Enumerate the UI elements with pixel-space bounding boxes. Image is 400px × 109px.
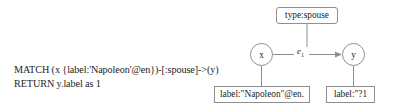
cypher-query-block: MATCH (x {label:'Napoleon'@en})-[:spouse… bbox=[14, 63, 229, 91]
graph-pattern-diagram: type:spouse x y e1 label:"Napoleon"@en. … bbox=[230, 0, 400, 109]
edge-label-e1[interactable]: e1 bbox=[296, 47, 305, 58]
property-box-type-spouse[interactable]: type:spouse bbox=[276, 7, 338, 24]
edge-label-subscript: 1 bbox=[301, 51, 304, 58]
cypher-query-line-2: RETURN y.label as 1 bbox=[14, 77, 229, 91]
property-box-label-napoleon[interactable]: label:"Napoleon"@en. bbox=[214, 86, 310, 103]
graph-node-x[interactable]: x bbox=[250, 43, 273, 66]
cypher-query-line-1: MATCH (x {label:'Napoleon'@en})-[:spouse… bbox=[14, 63, 229, 77]
property-box-label-y[interactable]: label:"?1 bbox=[326, 86, 375, 103]
graph-node-y[interactable]: y bbox=[342, 43, 365, 66]
edge-arrowhead-icon bbox=[335, 51, 342, 57]
